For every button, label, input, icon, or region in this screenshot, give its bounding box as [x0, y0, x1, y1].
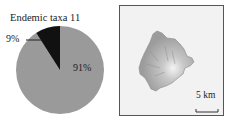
pie-label-endemic: 9%: [6, 33, 19, 44]
island-outline: [139, 31, 194, 91]
pie-chart: [0, 0, 113, 123]
island-map: 5 km: [119, 5, 224, 116]
scale-label: 5 km: [196, 90, 215, 100]
pie-chart-panel: Endemic taxa 11 9% 91%: [0, 0, 113, 123]
scale-bar: [196, 109, 218, 112]
pie-label-non-endemic: 91%: [73, 62, 91, 73]
